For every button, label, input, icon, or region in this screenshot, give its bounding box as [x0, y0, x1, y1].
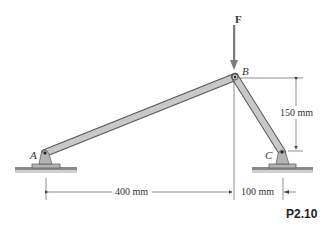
point-label-c: C [265, 149, 273, 161]
dimension-label-100: 100 mm [241, 186, 274, 197]
dimension-horizontal-100 [284, 190, 296, 194]
diagram-canvas: F A B C 150 mm 400 mm 100 mm P2.10 [0, 0, 333, 229]
force-label: F [235, 13, 242, 25]
member-bc [235, 77, 282, 152]
point-label-b: B [242, 65, 249, 77]
point-label-a: A [29, 149, 37, 161]
pin-support-c [269, 150, 296, 168]
member-ab [45, 77, 235, 153]
linkage-diagram: F A B C 150 mm 400 mm 100 mm P2.10 [0, 0, 333, 229]
figure-id: P2.10 [286, 207, 318, 221]
pin-b [232, 74, 238, 80]
dimension-label-400: 400 mm [115, 186, 148, 197]
dimension-label-150: 150 mm [280, 107, 313, 118]
force-arrow [230, 25, 238, 70]
